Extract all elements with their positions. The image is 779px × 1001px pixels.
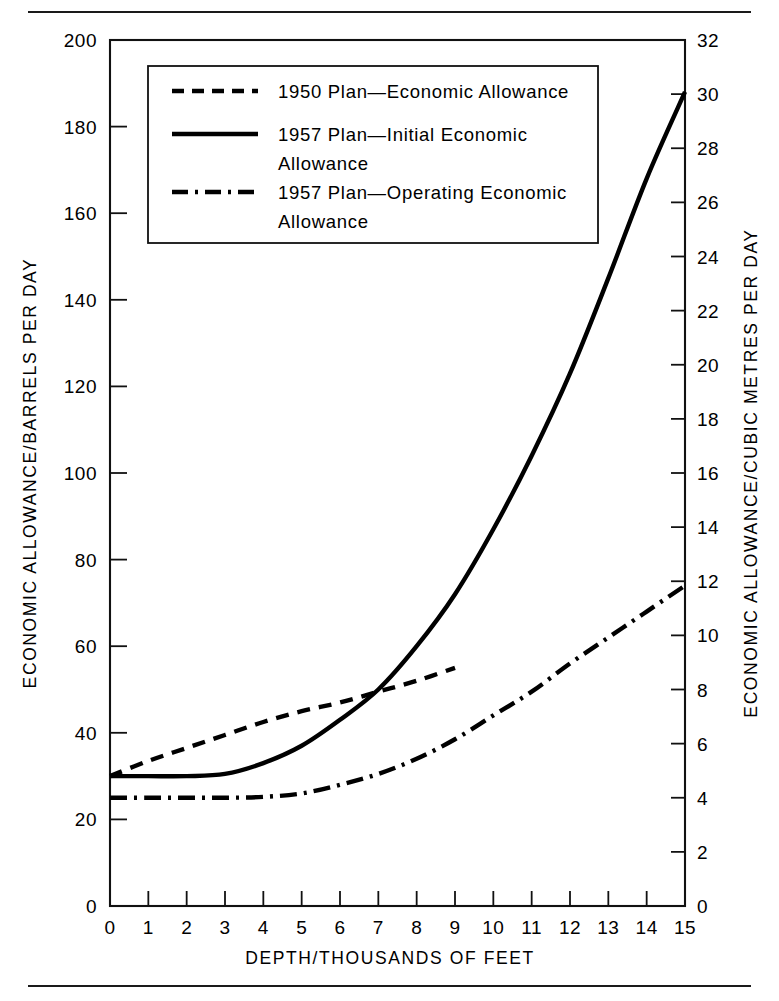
bottom-tick-label: 3 [219,917,230,938]
left-tick-label: 140 [64,290,97,311]
bottom-axis-ticks: 0123456789101112131415 [104,891,696,938]
legend-label-3-cont: Allowance [278,211,369,232]
right-tick-label: 24 [697,247,719,268]
right-tick-label: 30 [697,84,719,105]
right-tick-label: 2 [697,842,708,863]
bottom-tick-label: 9 [449,917,460,938]
left-tick-label: 60 [75,636,97,657]
left-axis-title: ECONOMIC ALLOWANCE/BARRELS PER DAY [20,258,40,689]
right-tick-label: 6 [697,734,708,755]
left-tick-label: 80 [75,550,97,571]
right-tick-label: 18 [697,409,719,430]
bottom-horizontal-rule [28,985,751,987]
left-axis-ticks: 020406080100120140160180200 [64,30,127,917]
left-tick-label: 200 [64,30,97,51]
right-tick-label: 22 [697,301,719,322]
right-axis-ticks: 02468101214161820222426283032 [671,30,719,917]
right-tick-label: 0 [697,896,708,917]
bottom-tick-label: 7 [373,917,384,938]
bottom-tick-label: 15 [674,917,696,938]
right-tick-label: 28 [697,138,719,159]
bottom-tick-label: 12 [559,917,581,938]
left-tick-label: 20 [75,809,97,830]
right-tick-label: 16 [697,463,719,484]
series-line-1 [110,668,455,776]
right-tick-label: 32 [697,30,719,51]
left-tick-label: 40 [75,723,97,744]
line-chart: 020406080100120140160180200 024681012141… [0,0,779,1001]
figure-container: 020406080100120140160180200 024681012141… [0,0,779,1001]
legend-label-3: 1957 Plan—Operating Economic [278,182,567,203]
right-axis-title: ECONOMIC ALLOWANCE/CUBIC METRES PER DAY [741,228,761,717]
bottom-tick-label: 8 [411,917,422,938]
right-tick-label: 20 [697,355,719,376]
bottom-axis-title: DEPTH/THOUSANDS OF FEET [245,948,535,968]
right-tick-label: 14 [697,517,719,538]
bottom-tick-label: 14 [636,917,658,938]
left-tick-label: 0 [86,896,97,917]
bottom-tick-label: 11 [521,917,542,938]
right-tick-label: 10 [697,625,719,646]
bottom-tick-label: 5 [296,917,307,938]
left-tick-label: 180 [64,117,97,138]
legend-label-2-cont: Allowance [278,153,369,174]
right-tick-label: 12 [697,571,719,592]
bottom-tick-label: 1 [143,917,154,938]
bottom-tick-label: 2 [181,917,192,938]
legend-label-2: 1957 Plan—Initial Economic [278,124,528,145]
series-line-3 [110,586,685,798]
bottom-tick-label: 13 [597,917,619,938]
chart-legend: 1950 Plan—Economic Allowance1957 Plan—In… [148,66,598,243]
left-tick-label: 100 [64,463,97,484]
bottom-tick-label: 10 [482,917,504,938]
bottom-tick-label: 6 [334,917,345,938]
legend-label-1: 1950 Plan—Economic Allowance [278,81,569,102]
bottom-tick-label: 0 [104,917,115,938]
left-tick-label: 160 [64,203,97,224]
left-tick-label: 120 [64,376,97,397]
right-tick-label: 4 [697,788,708,809]
right-tick-label: 8 [697,680,708,701]
bottom-tick-label: 4 [258,917,269,938]
top-horizontal-rule [28,11,751,13]
right-tick-label: 26 [697,192,719,213]
